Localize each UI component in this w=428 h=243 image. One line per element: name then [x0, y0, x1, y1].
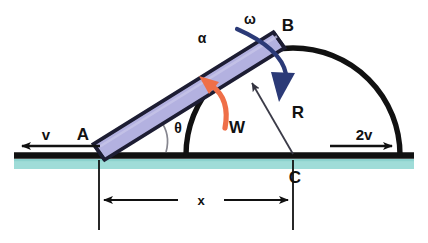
label-weight: W: [229, 118, 246, 137]
reaction-arrow: [252, 83, 293, 154]
physics-diagram-canvas: v A B C 2v θ α ω W R x: [0, 0, 428, 243]
label-point-a: A: [77, 125, 89, 144]
label-velocity-2v: 2v: [356, 126, 373, 143]
label-theta: θ: [174, 120, 182, 136]
label-distance-x: x: [197, 193, 205, 208]
dimension-x: [99, 160, 293, 230]
label-velocity-v: v: [42, 126, 51, 143]
ground-band: [14, 159, 414, 169]
label-reaction: R: [292, 103, 304, 122]
label-point-b: B: [282, 16, 294, 35]
label-point-c: C: [289, 168, 301, 187]
label-omega: ω: [244, 11, 256, 27]
physics-diagram-container: v A B C 2v θ α ω W R x: [0, 0, 428, 243]
label-alpha: α: [198, 30, 207, 46]
